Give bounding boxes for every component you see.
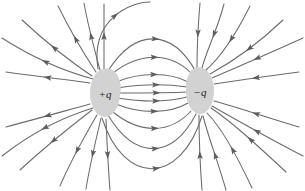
charge-label-positive: +q bbox=[99, 88, 112, 100]
electric-dipole-figure: +q−q bbox=[0, 0, 305, 191]
dipole-field-diagram: +q−q bbox=[0, 0, 305, 191]
figure-background bbox=[0, 0, 305, 191]
charge-label-negative: −q bbox=[194, 86, 207, 98]
